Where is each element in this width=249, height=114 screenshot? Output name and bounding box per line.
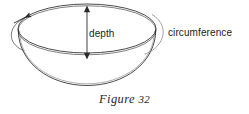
figure-container: depth circumference Figure 32 <box>0 0 249 114</box>
circumference-label: circumference <box>168 27 232 38</box>
figure-caption-word: Figure <box>99 92 135 106</box>
rotation-arrow-head <box>14 16 28 23</box>
figure-caption-number: 32 <box>139 93 150 105</box>
depth-arrowhead-bottom <box>84 53 90 60</box>
figure-caption: Figure 32 <box>0 92 249 107</box>
depth-arrowhead-top <box>84 6 90 13</box>
depth-label: depth <box>89 28 115 39</box>
